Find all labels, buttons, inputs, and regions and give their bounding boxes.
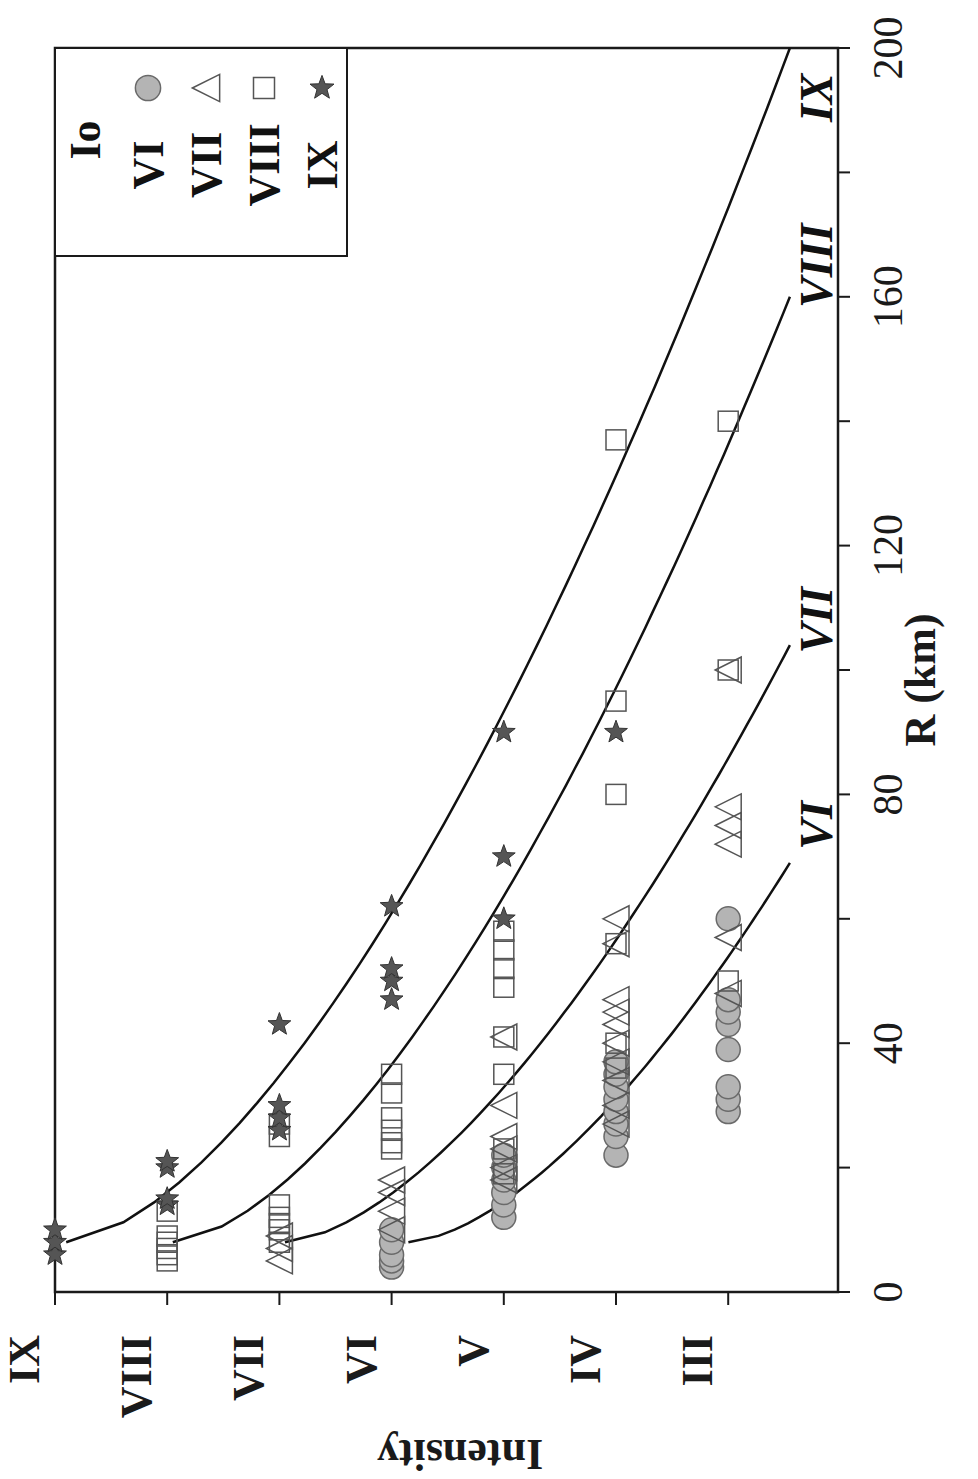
legend-label: VIII <box>240 123 289 206</box>
curve-viii <box>173 297 790 1242</box>
x-tick-label: 120 <box>865 514 911 577</box>
y-axis-title: Intensity <box>377 1430 543 1479</box>
curve-label: VI <box>791 799 842 850</box>
marker-triangle <box>715 813 741 839</box>
marker-square <box>157 1251 177 1271</box>
legend-label: VII <box>182 132 231 198</box>
marker-square <box>269 1214 289 1234</box>
marker-triangle <box>603 987 629 1013</box>
legend-title: Io <box>61 120 110 159</box>
marker-circle <box>716 1075 740 1099</box>
x-tick-label: 40 <box>865 1022 911 1064</box>
marker-square <box>382 1139 402 1159</box>
marker-square <box>494 977 514 997</box>
marker-square <box>157 1245 177 1265</box>
legend: Io VIVIIVIIIIX <box>55 48 347 256</box>
curve-label: VIII <box>791 221 842 307</box>
attenuation-chart: 04080120160200 IXVIIIVIIVIVIVIII VIVIIVI… <box>0 0 978 1479</box>
series-viii <box>157 411 738 1271</box>
y-tick-label: IX <box>0 1335 49 1384</box>
x-axis-title: R (km) <box>896 613 945 746</box>
marker-square <box>494 940 514 960</box>
marker-triangle <box>715 657 741 683</box>
curve-label: IX <box>791 72 842 123</box>
legend-label: IX <box>298 140 347 189</box>
x-tick-label: 0 <box>865 1282 911 1303</box>
marker-circle <box>135 75 160 100</box>
marker-circle <box>716 1037 740 1061</box>
marker-star <box>492 845 515 867</box>
marker-triangle <box>715 794 741 820</box>
marker-square <box>382 1120 402 1140</box>
y-tick-label: VII <box>224 1335 273 1401</box>
marker-square <box>494 1064 514 1084</box>
marker-square <box>269 1195 289 1215</box>
marker-square <box>382 1108 402 1128</box>
y-tick-label: III <box>673 1335 722 1386</box>
marker-square <box>382 1133 402 1153</box>
marker-square <box>606 784 626 804</box>
marker-triangle <box>491 1024 517 1050</box>
x-tick-label: 200 <box>865 17 911 80</box>
marker-star <box>492 720 515 742</box>
series-ix <box>44 720 628 1264</box>
marker-triangle <box>603 999 629 1025</box>
marker-star <box>268 1013 291 1035</box>
y-tick-label: VIII <box>112 1335 161 1418</box>
x-tick-label: 160 <box>865 265 911 328</box>
marker-star <box>380 988 403 1010</box>
y-tick-label: IV <box>561 1335 610 1384</box>
y-tick-label: VI <box>337 1335 386 1384</box>
marker-triangle <box>379 1167 405 1193</box>
marker-square <box>494 959 514 979</box>
marker-square <box>269 1207 289 1227</box>
marker-square <box>606 430 626 450</box>
curve-label: VII <box>791 585 842 654</box>
marker-square <box>382 1083 402 1103</box>
legend-label: VI <box>124 141 173 190</box>
series-vi <box>380 907 741 1279</box>
marker-triangle <box>715 831 741 857</box>
y-tick-label: V <box>449 1335 498 1367</box>
marker-star <box>605 720 628 742</box>
curve-vii <box>285 645 790 1242</box>
y-axis-ticks: IXVIIIVIIVIVIVIII <box>0 1292 728 1418</box>
data-points <box>44 411 742 1279</box>
x-tick-label: 80 <box>865 773 911 815</box>
